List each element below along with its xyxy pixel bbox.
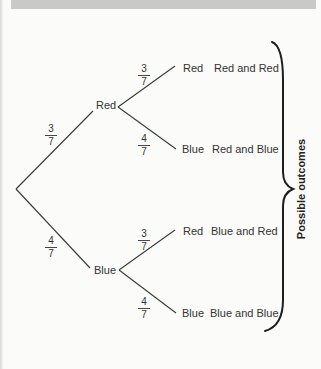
outcome-red-and-red: Red and Red: [214, 62, 279, 74]
prob-blue-blue: 4 7: [138, 297, 150, 320]
prob-root-blue: 4 7: [45, 236, 57, 259]
outcome-blue-and-blue: Blue and Blue: [210, 307, 279, 319]
prob-red-blue: 4 7: [138, 134, 150, 157]
prob-blue-red: 3 7: [138, 229, 150, 252]
outcome-red-and-blue: Red and Blue: [212, 143, 279, 155]
node-red-red: Red: [183, 62, 203, 74]
prob-root-red: 3 7: [45, 124, 57, 147]
node-red-blue: Blue: [182, 143, 204, 155]
node-blue: Blue: [94, 264, 116, 276]
branch-root-red: [16, 111, 93, 189]
outcomes-brace: [265, 42, 293, 331]
prob-red-red: 3 7: [138, 64, 150, 87]
outcome-blue-and-red: Blue and Red: [211, 225, 278, 237]
node-red: Red: [96, 99, 116, 111]
node-blue-red: Red: [183, 225, 203, 237]
node-blue-blue: Blue: [182, 307, 204, 319]
possible-outcomes-label: Possible outcomes: [295, 139, 307, 239]
